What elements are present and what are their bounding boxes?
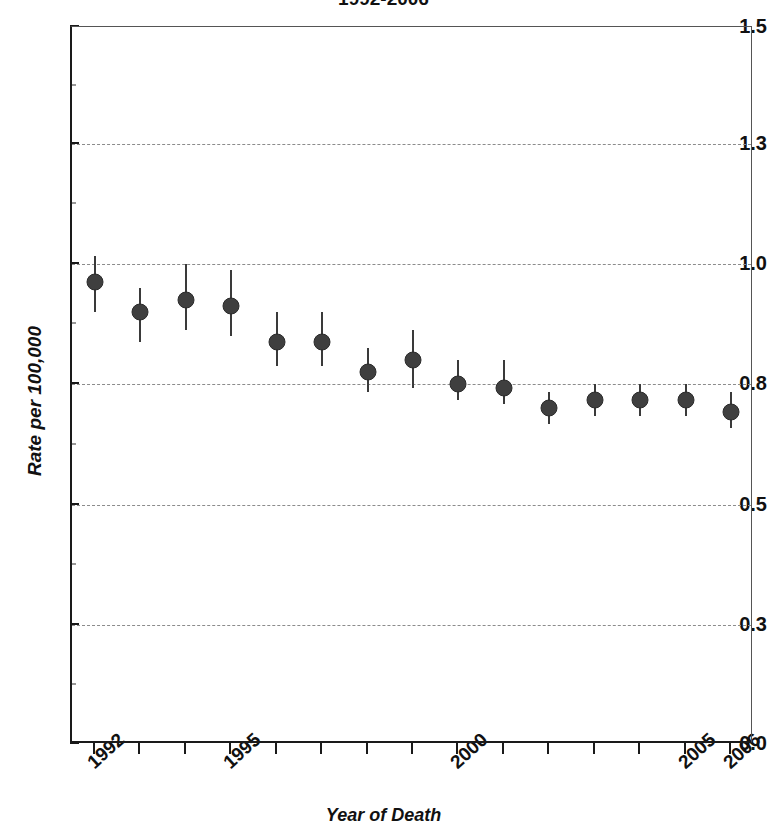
- x-axis-tick-mark: [138, 743, 140, 754]
- data-point: [450, 376, 467, 393]
- x-axis-tick-mark: [502, 743, 504, 754]
- data-point: [314, 334, 331, 351]
- data-point: [223, 298, 240, 315]
- x-axis-tick-mark: [547, 743, 549, 754]
- data-point: [405, 352, 422, 369]
- y-axis-title: Rate per 100,000: [24, 281, 46, 521]
- data-point: [541, 400, 558, 417]
- x-axis-tick-mark: [593, 743, 595, 754]
- data-point: [632, 392, 649, 409]
- data-point: [359, 364, 376, 381]
- data-point: [177, 292, 194, 309]
- chart-figure: 1992-2006 Rate per 100,000 Year of Death…: [0, 0, 767, 835]
- chart-title: 1992-2006: [0, 0, 767, 10]
- gridline: [72, 625, 751, 626]
- data-point: [586, 392, 603, 409]
- plot-area: [70, 26, 752, 743]
- data-point: [723, 404, 740, 421]
- data-point: [495, 380, 512, 397]
- x-axis-tick-mark: [184, 743, 186, 754]
- data-point: [677, 392, 694, 409]
- data-point: [132, 304, 149, 321]
- gridline: [72, 264, 751, 265]
- x-axis-tick-mark: [320, 743, 322, 754]
- data-point: [86, 274, 103, 291]
- x-axis-tick-mark: [411, 743, 413, 754]
- gridline: [72, 505, 751, 506]
- x-axis-tick-mark: [275, 743, 277, 754]
- x-axis-title: Year of Death: [0, 805, 767, 826]
- x-axis-tick-mark: [366, 743, 368, 754]
- data-point: [268, 334, 285, 351]
- x-axis-tick-mark: [638, 743, 640, 754]
- gridline: [72, 144, 751, 145]
